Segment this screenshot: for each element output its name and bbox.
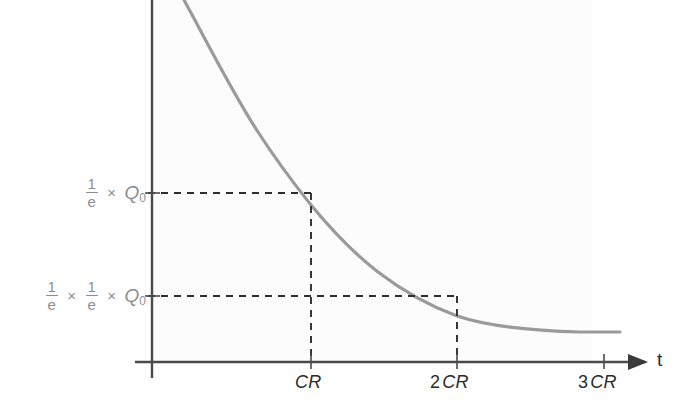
y-axis-label-one-over-e-q0: 1 e × Q0 [58,176,146,210]
quantity-symbol: Q0 [125,286,146,305]
quantity-letter: Q [125,285,140,306]
fraction-denominator: e [86,193,98,209]
x-axis-name: t [657,349,662,371]
fraction-one-over-e-first: 1 e [46,279,58,313]
fraction-denominator: e [46,296,58,312]
x-tick-label-3cr: 3CR [578,372,617,393]
x-tick-symbol: CR [442,372,469,392]
x-tick-coefficient: 3 [578,372,588,392]
y-axis-label-one-over-e-squared-q0: 1 e × 1 e × Q0 [22,279,146,313]
x-axis-arrow-icon [628,354,648,370]
fraction-numerator: 1 [86,279,98,296]
quantity-subscript: 0 [139,294,146,308]
decay-curve-figure: 1 e × Q0 1 e × 1 e × Q0 CR 2CR 3CR t [0,0,689,417]
multiplication-sign-second: × [107,288,116,303]
x-tick-coefficient: 2 [430,372,440,392]
fraction-numerator: 1 [46,279,58,296]
x-tick-label-2cr: 2CR [430,372,469,393]
decay-curve [184,0,620,332]
quantity-subscript: 0 [139,191,146,205]
x-tick-label-cr: CR [293,372,322,393]
x-tick-symbol: CR [590,372,617,392]
fraction-numerator: 1 [86,176,98,193]
quantity-letter: Q [125,182,140,203]
multiplication-sign: × [107,185,116,200]
x-tick-symbol: CR [295,372,322,392]
quantity-symbol: Q0 [125,183,146,202]
fraction-one-over-e: 1 e [86,176,98,210]
fraction-denominator: e [86,296,98,312]
fraction-one-over-e-second: 1 e [86,279,98,313]
multiplication-sign-first: × [67,288,76,303]
